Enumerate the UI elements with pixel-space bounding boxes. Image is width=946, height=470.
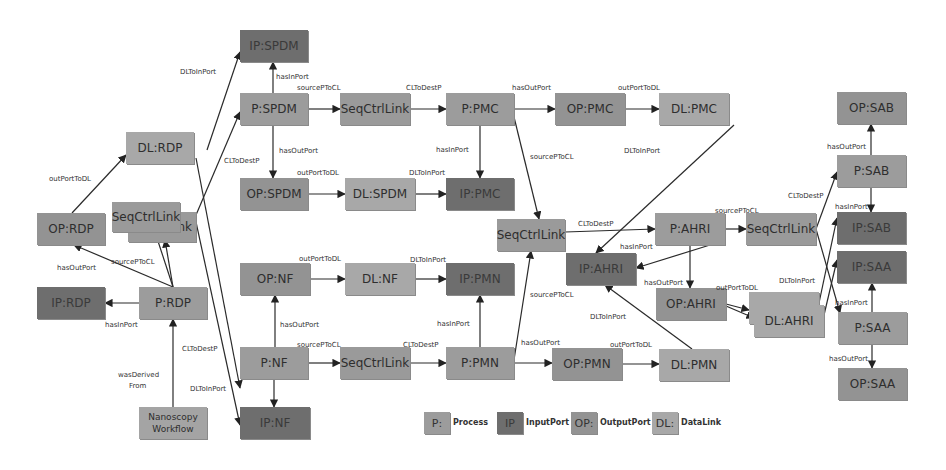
edge-label: DLToInPort — [190, 385, 226, 393]
edge-label: DLToInPort — [590, 313, 626, 321]
edge-arrow — [514, 117, 539, 219]
edge-label: hasOutPort — [57, 264, 96, 272]
node-ip-saa: IP:SAA — [837, 251, 906, 283]
edge-label: hasInPort — [437, 320, 470, 328]
node-op-ahri: OP:AHRI — [656, 288, 726, 320]
legend-swatch-ip: IP — [497, 412, 523, 434]
node-dl-nf: DL:NF — [345, 263, 415, 295]
node-op-nf: OP:NF — [240, 263, 310, 295]
edge-label: CLToDestP — [403, 341, 439, 349]
edge-label: hasInPort — [620, 243, 653, 251]
edge-label: CLToDestP — [224, 157, 260, 165]
edge-label: outPortToDL — [49, 175, 91, 183]
node-p-rdp: P:RDP — [139, 287, 207, 319]
node-p-saa: P:SAA — [838, 312, 907, 344]
node-scl-nf: SeqCtrlLink — [340, 347, 410, 379]
edge-label: From — [129, 382, 146, 390]
node-ip-pmc: IP:PMC — [446, 178, 514, 210]
edge-arrow — [165, 240, 173, 287]
node-p-pmc: P:PMC — [446, 93, 514, 125]
node-p-ahri: P:AHRI — [655, 213, 725, 245]
node-scl-mid: SeqCtrlLink — [497, 219, 565, 251]
edge-label: sourcePToCL — [715, 207, 759, 215]
node-op-sab: OP:SAB — [837, 92, 906, 124]
edge-label: CLToDestP — [578, 220, 614, 228]
edge-label: CLToDestP — [406, 84, 442, 92]
node-p-sab: P:SAB — [837, 155, 906, 187]
node-ip-nf: IP:NF — [240, 407, 310, 439]
edge-label: hasOutPort — [521, 339, 560, 347]
edge-label: DLToInPort — [779, 277, 815, 285]
node-op-pmc: OP:PMC — [555, 93, 625, 125]
edge-label: outPortToDL — [716, 284, 758, 292]
edge-arrow — [565, 229, 655, 232]
node-op-saa: OP:SAA — [838, 368, 907, 400]
legend-swatch-p: P: — [424, 412, 450, 434]
node-dl-pmc: DL:PMC — [659, 93, 729, 125]
node-dl-ahri: DL:AHRI — [754, 305, 824, 337]
edge-label: sourcePToCL — [111, 258, 155, 266]
edge-label: hasInPort — [835, 299, 868, 307]
node-dl-rdp: DL:RDP — [126, 132, 194, 164]
edge-label: outPortToDL — [610, 341, 652, 349]
node-p-nf: P:NF — [240, 347, 308, 379]
edge-label: hasOutPort — [644, 279, 683, 287]
edge-label: CLToDestP — [182, 345, 218, 353]
node-wf: Nanoscopy Workflow — [139, 407, 207, 439]
edge-label: sourcePToCL — [530, 153, 574, 161]
node-scl-rdp: SeqCtrlLink — [112, 202, 180, 232]
edge-arrow — [196, 222, 240, 425]
node-scl-spdm: SeqCtrlLink — [340, 93, 410, 125]
node-op-rdp: OP:RDP — [37, 213, 105, 245]
edge-label: DLToInPort — [624, 147, 660, 155]
node-dl-pmn: DL:PMN — [659, 349, 729, 381]
legend-label-dl: DataLink — [681, 418, 721, 427]
node-p-pmn: P:PMN — [446, 347, 514, 379]
node-ip-pmn: IP:PMN — [446, 263, 514, 295]
node-op-spdm: OP:SPDM — [240, 178, 308, 210]
node-p-spdm: P:SPDM — [240, 93, 308, 125]
edge-label: sourcePToCL — [297, 84, 341, 92]
edge-label: hasInPort — [276, 73, 309, 81]
edge-label: outPortToDL — [299, 255, 341, 263]
edge-arrow — [207, 52, 240, 150]
edge-label: hasInPort — [835, 203, 868, 211]
edge-label: outPortToDL — [297, 169, 339, 177]
node-dl-spdm: DL:SPDM — [345, 178, 415, 210]
node-ip-rdp: IP:RDP — [37, 287, 105, 319]
edge-label: DLToInPort — [180, 68, 216, 76]
node-ip-ahri: IP:AHRI — [566, 253, 636, 285]
edge-label: hasInPort — [436, 146, 469, 154]
legend-swatch-dl: DL: — [652, 412, 678, 434]
edge-label: hasOutPort — [827, 143, 866, 151]
edge-label: hasInPort — [105, 321, 138, 329]
edge-label: CLToDestP — [788, 192, 824, 200]
provenance-diagram: IP:SPDMP:SPDMOP:SPDMDL:RDPOP:RDPnkSeqCtr… — [0, 0, 946, 470]
legend-label-p: Process — [453, 418, 488, 427]
edge-label: sourcePToCL — [297, 341, 341, 349]
edge-label: hasOutPort — [279, 147, 318, 155]
node-scl-ahri: SeqCtrlLink — [746, 213, 816, 245]
edge-label: hasOutPort — [829, 355, 868, 363]
edge-label: hasOutPort — [280, 321, 319, 329]
edge-label: DLToInPort — [410, 256, 446, 264]
node-ip-spdm: IP:SPDM — [240, 30, 308, 62]
legend-label-ip: InputPort — [526, 418, 569, 427]
edge-label: sourcePToCL — [530, 291, 574, 299]
edge-label: outPortToDL — [618, 84, 660, 92]
edge-arrow — [816, 172, 837, 229]
edge-arrow — [819, 218, 837, 303]
edge-arrow — [196, 158, 240, 388]
edge-label: DLToInPort — [409, 169, 445, 177]
edge-label: hasOutPort — [512, 84, 551, 92]
node-ip-sab: IP:SAB — [837, 212, 906, 244]
legend-swatch-op: OP: — [571, 412, 597, 434]
legend-label-op: OutputPort — [600, 418, 651, 427]
edge-label: wasDerived — [118, 371, 159, 379]
node-op-pmn: OP:PMN — [552, 348, 622, 380]
